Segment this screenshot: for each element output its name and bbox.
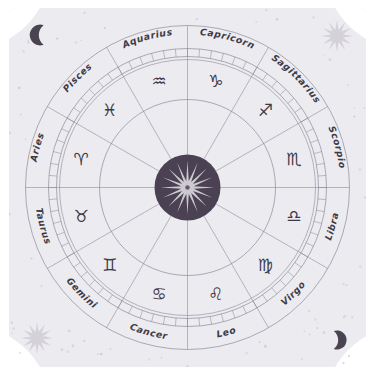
zodiac-name-label: Libra	[322, 211, 340, 242]
zodiac-glyph-leo: ♌	[208, 284, 223, 304]
zodiac-glyph-aquarius: ♒	[151, 71, 166, 91]
zodiac-glyph-libra: ♎	[286, 206, 301, 226]
zodiac-name-scorpio: Scorpio	[326, 124, 348, 169]
zodiac-name-libra: Libra	[322, 211, 340, 242]
chart-card: ♑♐♏♎♍♌♋♊♉♈♓♒CapricornSagittariusScorpioL…	[9, 8, 366, 367]
zodiac-name-label: Capricorn	[200, 26, 257, 51]
zodiac-wheel-poster: ♑♐♏♎♍♌♋♊♉♈♓♒CapricornSagittariusScorpioL…	[0, 0, 375, 376]
starburst-icon	[320, 19, 354, 53]
zodiac-name-cancer: Cancer	[129, 321, 169, 342]
crescent-moon-icon	[26, 22, 52, 48]
zodiac-glyph-gemini: ♊	[102, 255, 117, 275]
zodiac-name-label: Aquarius	[119, 26, 173, 50]
zodiac-glyph-sagittarius: ♐	[258, 100, 273, 120]
zodiac-wheel-graphic: ♑♐♏♎♍♌♋♊♉♈♓♒CapricornSagittariusScorpioL…	[9, 8, 366, 367]
zodiac-glyph-virgo: ♍	[258, 255, 273, 275]
zodiac-glyph-aries: ♈	[74, 149, 89, 169]
zodiac-glyph-capricorn: ♑	[208, 71, 223, 91]
sun-hub	[155, 155, 221, 221]
zodiac-name-label: Scorpio	[326, 124, 348, 169]
zodiac-name-label: Leo	[215, 324, 237, 340]
zodiac-name-aquarius: Aquarius	[119, 26, 173, 50]
zodiac-glyph-pisces: ♓	[102, 100, 117, 120]
zodiac-name-label: Cancer	[129, 321, 169, 342]
starburst-icon	[20, 321, 54, 355]
starburst-shape	[21, 322, 53, 354]
zodiac-name-capricorn: Capricorn	[200, 26, 257, 51]
crescent-moon-icon	[326, 328, 350, 352]
zodiac-name-leo: Leo	[215, 324, 237, 340]
zodiac-glyph-cancer: ♋	[151, 284, 166, 304]
zodiac-glyph-taurus: ♉	[74, 206, 89, 226]
zodiac-glyph-scorpio: ♏	[286, 149, 301, 169]
starburst-shape	[321, 20, 353, 52]
